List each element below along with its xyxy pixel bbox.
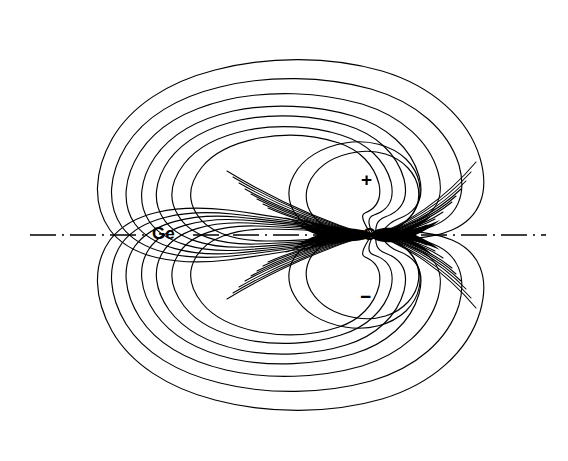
- lobe-sign-positive: +: [361, 170, 372, 189]
- molecular-orbital-contour-canvas: [0, 0, 568, 461]
- contour-plot-figure: Ge C + −: [0, 0, 568, 461]
- atom-label-ge: Ge: [152, 225, 175, 242]
- lobe-sign-negative: −: [360, 287, 371, 306]
- atom-label-c: C: [363, 226, 375, 243]
